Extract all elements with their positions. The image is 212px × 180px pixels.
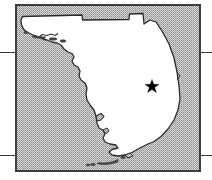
- rule-right-top: [200, 52, 212, 53]
- florida-map-svg: [17, 6, 199, 170]
- rule-right-bottom: [200, 155, 212, 156]
- marker-label: [0, 0, 1, 1]
- figure-caption: [0, 0, 1, 1]
- water-label: Gulf of Mexico and Atlantic Ocean: [0, 0, 1, 1]
- land-label: Florida peninsula and panhandle: [0, 0, 1, 1]
- map-frame: [15, 4, 201, 172]
- map-title: Florida: [0, 0, 1, 1]
- locator-map-figure: Florida Florida peninsula and panhandle …: [0, 0, 212, 180]
